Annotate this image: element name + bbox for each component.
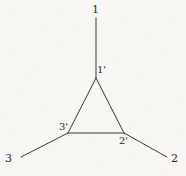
label-outer-vertex-3: 3 [5,153,12,164]
leg-bottom-right [124,133,167,157]
label-inner-vertex-1-prime: 1' [97,64,106,75]
label-inner-vertex-3-prime: 3' [59,121,68,132]
figure-container: 1 2 3 1' 2' 3' [0,0,186,176]
triangle-edge-right [96,78,124,133]
triangle-edge-left [68,78,96,133]
label-inner-vertex-2-prime: 2' [119,135,128,146]
figure-diagram [0,0,186,176]
leg-bottom-left [21,133,68,157]
label-outer-vertex-2: 2 [171,153,178,164]
line-segments-group [21,18,167,157]
label-outer-vertex-1: 1 [92,4,99,15]
